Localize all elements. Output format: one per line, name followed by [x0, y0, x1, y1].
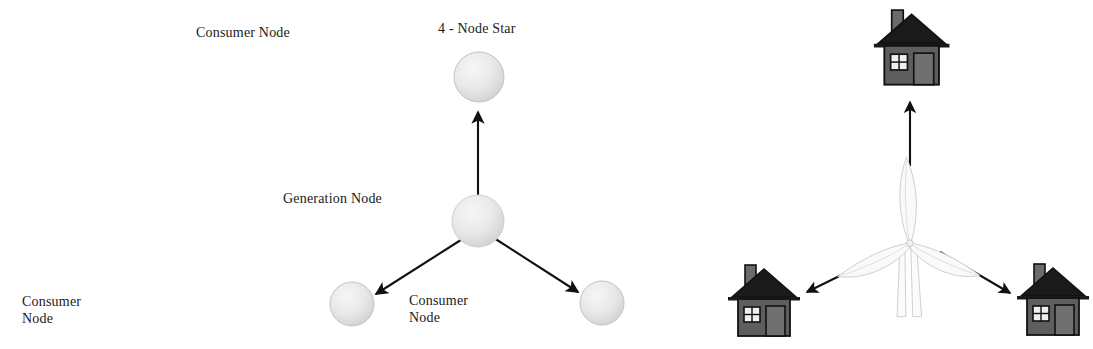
edge-center-to-bottom-left	[376, 238, 464, 294]
house-icon-top	[874, 10, 950, 85]
left-diagram-panel: Consumer Node Generation Node Consumer N…	[0, 0, 460, 349]
right-diagram-title: 4 - Node Star	[438, 20, 516, 37]
right-diagram-graphics	[460, 0, 1093, 349]
edge-turbine-to-house-bottom-left	[807, 253, 886, 292]
label-generation-node: Generation Node	[283, 190, 382, 207]
right-diagram-panel: 4 - Node Star	[460, 0, 908, 349]
house-icon-bottom-right	[1017, 264, 1089, 335]
right-edges	[807, 102, 1010, 293]
label-consumer-node-top: Consumer Node	[196, 24, 290, 41]
node-consumer-bottom-left	[330, 282, 374, 326]
label-consumer-node-bottom-left: Consumer Node	[22, 293, 81, 327]
edge-turbine-to-house-bottom-right	[940, 252, 1010, 293]
house-icon-bottom-left	[728, 265, 800, 336]
wind-turbine-icon	[838, 157, 980, 317]
